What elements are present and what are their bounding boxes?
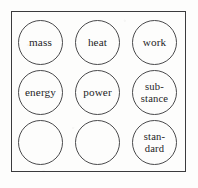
- circle-label-mass: mass: [28, 37, 53, 49]
- circle-node-heat: heat: [75, 20, 120, 65]
- circle-node-mass: mass: [18, 20, 63, 65]
- circle-node-power: power: [75, 70, 120, 115]
- circle-label-substance: sub- stance: [140, 81, 169, 103]
- circle-node-empty-2: [75, 120, 120, 165]
- diagram-frame: mass heat work energy power sub- stance: [11, 11, 186, 172]
- circle-label-standard: stan- dard: [143, 131, 166, 153]
- circle-node-standard: stan- dard: [132, 120, 177, 165]
- circle-label-power: power: [82, 87, 113, 99]
- circle-label-heat: heat: [87, 37, 108, 49]
- circle-grid: mass heat work energy power sub- stance: [12, 12, 185, 171]
- circle-node-substance: sub- stance: [132, 70, 177, 115]
- circle-label-energy: energy: [24, 87, 57, 99]
- figure-root: mass heat work energy power sub- stance: [0, 0, 198, 188]
- circle-node-energy: energy: [18, 70, 63, 115]
- circle-node-work: work: [132, 20, 177, 65]
- circle-label-work: work: [142, 37, 168, 49]
- circle-node-empty-1: [18, 120, 63, 165]
